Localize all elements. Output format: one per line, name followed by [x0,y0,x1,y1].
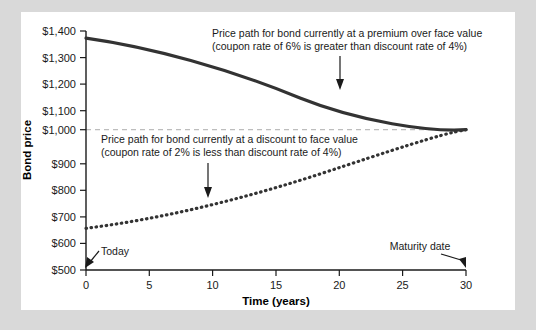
discount-annotation-line2: (coupon rate of 2% is less than discount… [101,146,341,158]
maturity-callout-arrow-head [459,257,466,268]
x-tick-label-30: 30 [460,279,472,291]
maturity-callout-arrow-line [441,254,461,260]
premium-annotation-arrow-head [336,79,344,90]
discount-annotation: Price path for bond currently at a disco… [101,133,358,198]
y-axis-title: Bond price [21,120,33,180]
x-axis-ticks [86,270,466,276]
y-tick-label-500: $500 [52,264,76,276]
figure-frame: $500 $600 $700 $800 $900 $1,000 $1,100 $… [0,0,536,330]
y-tick-label-1300: $1,300 [42,52,76,64]
x-tick-label-20: 20 [333,279,345,291]
x-tick-label-25: 25 [396,279,408,291]
y-tick-label-1400: $1,400 [42,25,76,37]
bond-price-chart: $500 $600 $700 $800 $900 $1,000 $1,100 $… [0,0,536,330]
x-tick-label-15: 15 [270,279,282,291]
today-callout-label: Today [101,245,130,257]
x-tick-label-10: 10 [206,279,218,291]
y-tick-label-900: $900 [52,158,76,170]
y-axis-ticks [80,31,86,270]
x-tick-label-0: 0 [83,279,89,291]
x-axis-title: Time (years) [242,295,310,307]
y-tick-label-1000: $1,000 [42,124,76,136]
discount-annotation-arrow-head [204,187,212,198]
y-tick-label-800: $800 [52,184,76,196]
today-callout: Today [85,245,130,268]
discount-annotation-line1: Price path for bond currently at a disco… [101,133,358,145]
premium-annotation-line1: Price path for bond currently at a premi… [212,27,482,39]
premium-annotation-line2: (coupon rate of 6% is greater than disco… [212,40,467,52]
maturity-callout-label: Maturity date [390,240,451,252]
y-tick-label-1200: $1,200 [42,78,76,90]
y-tick-label-600: $600 [52,237,76,249]
y-tick-label-700: $700 [52,211,76,223]
y-tick-label-1100: $1,100 [42,105,76,117]
maturity-callout: Maturity date [390,240,466,268]
x-tick-label-5: 5 [146,279,152,291]
